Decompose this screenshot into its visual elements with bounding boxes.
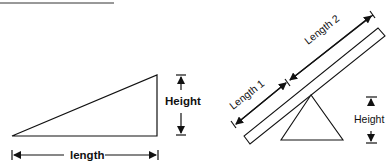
diagram-canvas: Height length Length 1 Length 2 — [0, 0, 391, 166]
ramp-diagram: Height length — [12, 75, 201, 161]
ramp-triangle — [12, 75, 157, 136]
seesaw-length2-label: Length 2 — [302, 12, 342, 47]
seesaw-diagram: Length 1 Length 2 Height — [227, 11, 385, 144]
seesaw-length1-label: Length 1 — [227, 77, 267, 112]
ramp-height-label: Height — [165, 95, 201, 107]
ramp-length-label: length — [70, 149, 105, 161]
seesaw-height-label: Height — [354, 113, 384, 125]
